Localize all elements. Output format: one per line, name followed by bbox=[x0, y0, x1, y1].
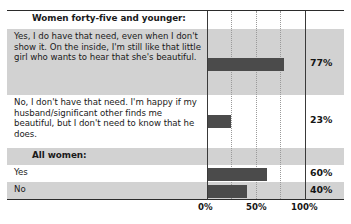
bar-yes-all bbox=[208, 168, 267, 181]
axis-line-100 bbox=[305, 11, 306, 200]
xtick-label-50: 50% bbox=[246, 202, 267, 212]
row-label-answer-no-young: No, I don't have that need. I'm happy if… bbox=[10, 95, 208, 139]
value-label-yes-young: 77% bbox=[310, 57, 344, 68]
table-row: No, I don't have that need. I'm happy if… bbox=[7, 95, 344, 148]
table-row: Yes bbox=[7, 165, 344, 182]
table-row: Women forty-five and younger: bbox=[7, 11, 344, 29]
row-label-answer-no-all: No bbox=[10, 182, 208, 195]
row-label-answer-yes-all: Yes bbox=[10, 165, 208, 178]
table-bottom-rule bbox=[7, 199, 344, 200]
xtick-label-100: 100% bbox=[291, 202, 318, 212]
table-row: All women: bbox=[7, 148, 344, 165]
bar-yes-young bbox=[208, 58, 284, 71]
value-label-yes-all: 60% bbox=[310, 167, 344, 178]
value-label-no-young: 23% bbox=[310, 114, 344, 125]
table-row: No bbox=[7, 182, 344, 199]
bar-no-all bbox=[208, 185, 247, 198]
value-label-no-all: 40% bbox=[310, 184, 344, 195]
table-body: Women forty-five and younger: Yes, I do … bbox=[7, 11, 344, 199]
gridline-75 bbox=[280, 11, 282, 199]
row-label-group-young: Women forty-five and younger: bbox=[10, 11, 208, 24]
xtick-label-0: 0% bbox=[198, 202, 213, 212]
row-label-group-all: All women: bbox=[10, 148, 208, 161]
row-label-answer-yes-young: Yes, I do have that need, even when I do… bbox=[10, 29, 208, 63]
bar-no-young bbox=[208, 115, 231, 128]
table-row: Yes, I do have that need, even when I do… bbox=[7, 29, 344, 95]
survey-bar-chart: Women forty-five and younger: Yes, I do … bbox=[0, 0, 351, 224]
